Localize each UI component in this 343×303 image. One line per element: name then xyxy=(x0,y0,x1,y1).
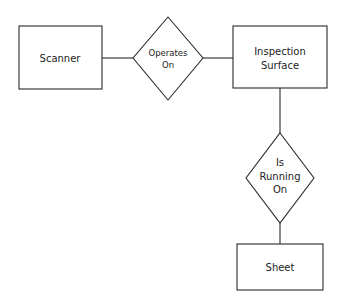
relationship-is-running-on-label-line2: Running xyxy=(260,171,301,182)
relationship-is-running-on-label-line1: Is xyxy=(276,157,284,168)
entity-inspection-surface: Inspection Surface xyxy=(233,26,327,88)
entity-inspection-surface-box xyxy=(233,26,327,88)
entity-sheet-label: Sheet xyxy=(266,262,295,273)
er-diagram: Scanner Operates On Inspection Surface I… xyxy=(0,0,343,303)
entity-inspection-surface-label-line1: Inspection xyxy=(254,46,306,57)
relationship-operates-on-diamond xyxy=(133,17,203,100)
entity-sheet: Sheet xyxy=(237,244,323,290)
relationship-is-running-on-label-line3: On xyxy=(273,184,287,195)
relationship-operates-on-label-line2: On xyxy=(162,60,174,70)
entity-scanner-label: Scanner xyxy=(40,53,82,64)
relationship-operates-on: Operates On xyxy=(133,17,203,100)
entity-scanner: Scanner xyxy=(19,26,102,89)
relationship-is-running-on: Is Running On xyxy=(246,133,314,223)
relationship-operates-on-label-line1: Operates xyxy=(148,48,188,58)
entity-inspection-surface-label-line2: Surface xyxy=(261,60,299,71)
